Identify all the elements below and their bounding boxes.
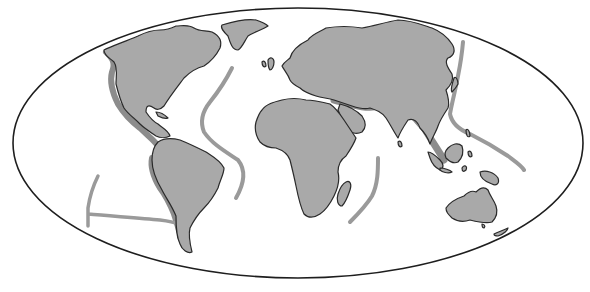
landmass-sulawesi (462, 166, 467, 171)
landmass-tasmania (482, 224, 485, 228)
world-map (0, 0, 590, 292)
landmass-sri-lanka (398, 141, 402, 147)
